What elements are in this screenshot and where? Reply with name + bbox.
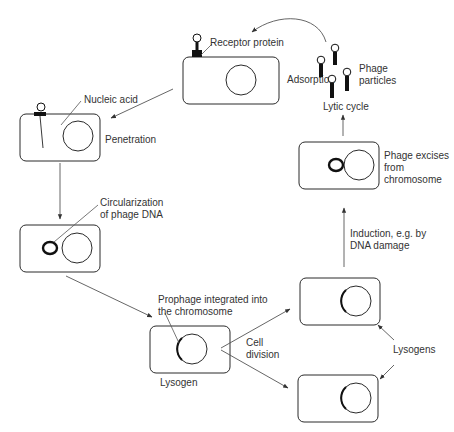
lysogen-label: Lysogen (160, 377, 197, 388)
receptor-protein-label: Receptor protein (210, 37, 284, 48)
cell-division-label-line1: Cell (246, 337, 263, 348)
phage-particle-icon (343, 68, 351, 91)
phage-head-icon (37, 103, 45, 111)
induction-label-line2: DNA damage (350, 240, 410, 251)
cell-lysogen-daughter-bottom (298, 375, 378, 422)
phage-excises-label-line2: from (384, 162, 404, 173)
circularization-label-line2: of phage DNA (100, 209, 163, 220)
receptor-protein-shape (192, 50, 202, 57)
cell-phage-excises (299, 142, 379, 189)
arrow-lysogens-to-bottom (380, 365, 394, 379)
arrow-circularization-to-lysogen (66, 276, 152, 317)
phage-excises-label-line3: chromosome (384, 174, 442, 185)
cell-circularization (20, 225, 100, 272)
cell-lysogen-daughter-top (300, 278, 380, 325)
prophage-label-line2: the chromosome (158, 306, 233, 317)
phage-particle-icon (328, 75, 336, 98)
prophage-label-line1: Prophage integrated into (158, 294, 268, 305)
circularization-label-line1: Circularization (100, 197, 163, 208)
phage-particles (317, 44, 351, 98)
penetration-label: Penetration (105, 134, 156, 145)
phage-particle-icon (331, 44, 339, 65)
phage-particles-label-line1: Phage (359, 63, 388, 74)
adsorption-label: Adsorption (287, 74, 335, 85)
induction-label-line1: Induction, e.g. by (350, 228, 426, 239)
cell-division-label-line2: division (246, 349, 279, 360)
lytic-cycle-label: Lytic cycle (323, 101, 369, 112)
arrow-lysogens-to-top (378, 325, 394, 340)
phage-excises-label-line1: Phage excises (384, 150, 449, 161)
phage-particles-label-line2: particles (359, 75, 396, 86)
lysogens-label: Lysogens (393, 344, 435, 355)
nucleic-acid-label: Nucleic acid (84, 94, 138, 105)
cell-lysogen (150, 326, 230, 373)
cell-penetration (20, 103, 100, 161)
phage-life-cycle-diagram: Receptor protein Adsorption Nucleic acid… (0, 0, 454, 432)
phage-head-icon (193, 34, 201, 42)
